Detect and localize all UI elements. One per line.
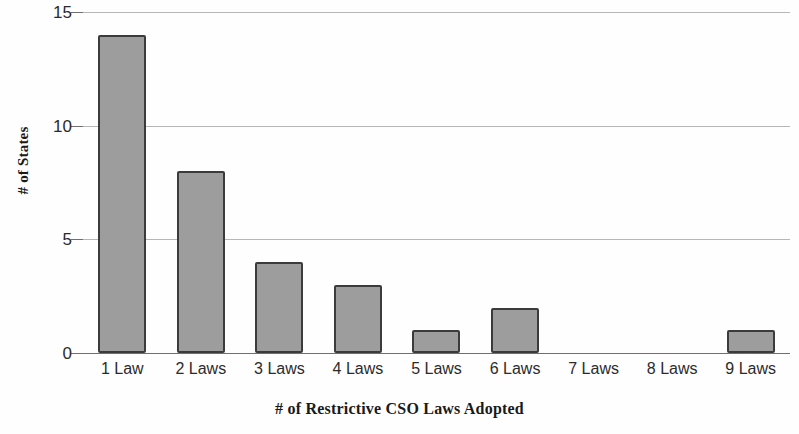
- bar-slot: [711, 12, 790, 353]
- y-axis-tick-label: 0: [63, 345, 72, 362]
- bar-slot: [83, 12, 162, 353]
- bar-series: [83, 12, 790, 353]
- bar-slot: [162, 12, 241, 353]
- y-axis-tick-label: 10: [53, 117, 72, 134]
- x-axis-baseline: [83, 353, 790, 354]
- y-axis-tick-mark: [71, 239, 83, 240]
- bar-slot: [476, 12, 555, 353]
- x-axis-tick-label: 9 Laws: [711, 360, 790, 378]
- x-axis-tick-labels: 1 Law2 Laws3 Laws4 Laws5 Laws6 Laws7 Law…: [83, 360, 790, 384]
- bar: [255, 262, 303, 353]
- bar: [98, 35, 146, 353]
- bar-slot: [554, 12, 633, 353]
- bar-slot: [633, 12, 712, 353]
- bar-chart-figure: # of States 051015 1 Law2 Laws3 Laws4 La…: [0, 0, 799, 434]
- x-axis-tick-label: 7 Laws: [554, 360, 633, 378]
- x-axis-tick-label: 2 Laws: [162, 360, 241, 378]
- plot-area: 051015: [83, 12, 790, 353]
- y-axis-tick-label: 5: [63, 231, 72, 248]
- x-axis-tick-label: 1 Law: [83, 360, 162, 378]
- x-axis-tick-label: 6 Laws: [476, 360, 555, 378]
- x-axis-tick-label: 3 Laws: [240, 360, 319, 378]
- bar: [334, 285, 382, 353]
- bar-slot: [240, 12, 319, 353]
- x-axis-tick-label: 4 Laws: [319, 360, 398, 378]
- y-axis-title: # of States: [15, 91, 32, 231]
- y-axis-tick-mark: [71, 12, 83, 13]
- y-axis-tick-mark: [71, 353, 83, 354]
- x-axis-tick-label: 8 Laws: [633, 360, 712, 378]
- bar-slot: [397, 12, 476, 353]
- x-axis-tick-label: 5 Laws: [397, 360, 476, 378]
- bar: [177, 171, 225, 353]
- y-axis-tick-label: 15: [53, 4, 72, 21]
- y-axis-tick-mark: [71, 126, 83, 127]
- bar: [491, 308, 539, 353]
- bar: [412, 330, 460, 353]
- bar: [727, 330, 775, 353]
- bar-slot: [319, 12, 398, 353]
- x-axis-title: # of Restrictive CSO Laws Adopted: [0, 400, 799, 418]
